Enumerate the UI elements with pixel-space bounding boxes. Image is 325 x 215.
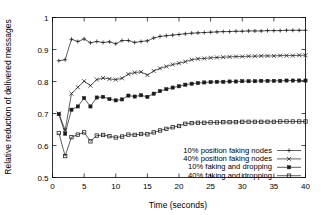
data-point-marker bbox=[234, 80, 237, 83]
data-point-marker bbox=[133, 95, 136, 98]
data-point-marker bbox=[165, 88, 168, 91]
data-point-marker bbox=[209, 81, 212, 84]
data-point-marker bbox=[139, 94, 142, 97]
x-tick-label: 30 bbox=[238, 182, 247, 191]
y-axis-label: Relative reduction of delivered messages bbox=[3, 19, 13, 174]
data-point-marker bbox=[260, 79, 263, 82]
series-1 bbox=[57, 28, 308, 62]
data-point-marker bbox=[57, 113, 60, 116]
data-point-marker bbox=[298, 79, 301, 82]
data-point-marker bbox=[184, 83, 187, 86]
data-point-marker bbox=[222, 80, 225, 83]
data-point-marker bbox=[253, 80, 256, 83]
data-point-marker bbox=[83, 97, 86, 100]
x-tick-label: 20 bbox=[175, 182, 184, 191]
data-point-marker bbox=[279, 79, 282, 82]
chart-figure: 0510152025303540 0.50.60.70.80.91 10% po… bbox=[0, 0, 325, 215]
x-tick-label: 25 bbox=[206, 182, 215, 191]
data-point-marker bbox=[196, 82, 199, 85]
y-tick-label: 1 bbox=[44, 14, 49, 23]
data-point-marker bbox=[146, 95, 149, 98]
line-chart: 0510152025303540 0.50.60.70.80.91 10% po… bbox=[0, 0, 325, 215]
data-point-marker bbox=[108, 98, 111, 101]
legend-sample-marker bbox=[287, 166, 290, 169]
data-point-marker bbox=[304, 79, 307, 82]
x-tick-label: 0 bbox=[50, 182, 55, 191]
x-tick-label: 10 bbox=[111, 182, 120, 191]
data-point-marker bbox=[228, 80, 231, 83]
y-tick-label: 0.8 bbox=[37, 78, 49, 87]
y-tick-label: 0.6 bbox=[37, 142, 49, 151]
chart-legend: 10% position faking nodes40% position fa… bbox=[183, 146, 301, 180]
data-point-marker bbox=[215, 80, 218, 83]
series-line-path bbox=[59, 55, 306, 130]
data-point-marker bbox=[64, 132, 67, 135]
y-tick-label: 0.5 bbox=[37, 174, 49, 183]
data-point-marker bbox=[285, 79, 288, 82]
data-point-marker bbox=[120, 98, 123, 101]
x-tick-label: 40 bbox=[301, 182, 310, 191]
series-3 bbox=[57, 79, 307, 135]
series-2 bbox=[57, 53, 308, 132]
data-point-marker bbox=[177, 85, 180, 88]
data-point-marker bbox=[158, 90, 161, 93]
data-point-marker bbox=[114, 99, 117, 102]
data-point-marker bbox=[102, 95, 105, 98]
data-point-marker bbox=[95, 96, 98, 99]
data-point-marker bbox=[190, 82, 193, 85]
data-point-marker bbox=[291, 79, 294, 82]
data-point-marker bbox=[171, 86, 174, 89]
x-tick-label: 15 bbox=[143, 182, 152, 191]
y-tick-label: 0.7 bbox=[37, 110, 49, 119]
x-tick-label: 35 bbox=[269, 182, 278, 191]
data-point-marker bbox=[70, 108, 73, 111]
data-point-marker bbox=[272, 79, 275, 82]
x-tick-label: 5 bbox=[82, 182, 87, 191]
legend-label: 40% faking and dropping bbox=[188, 171, 272, 180]
series-line-path bbox=[59, 81, 306, 134]
data-point-marker bbox=[247, 80, 250, 83]
data-point-marker bbox=[89, 105, 92, 108]
data-point-marker bbox=[76, 105, 79, 108]
data-point-marker bbox=[203, 81, 206, 84]
x-axis-label: Time (seconds) bbox=[149, 200, 207, 210]
y-tick-label: 0.9 bbox=[37, 46, 49, 55]
data-point-marker bbox=[127, 94, 130, 97]
data-point-marker bbox=[152, 92, 155, 95]
data-point-marker bbox=[266, 79, 269, 82]
data-series bbox=[57, 28, 308, 157]
data-point-marker bbox=[241, 80, 244, 83]
